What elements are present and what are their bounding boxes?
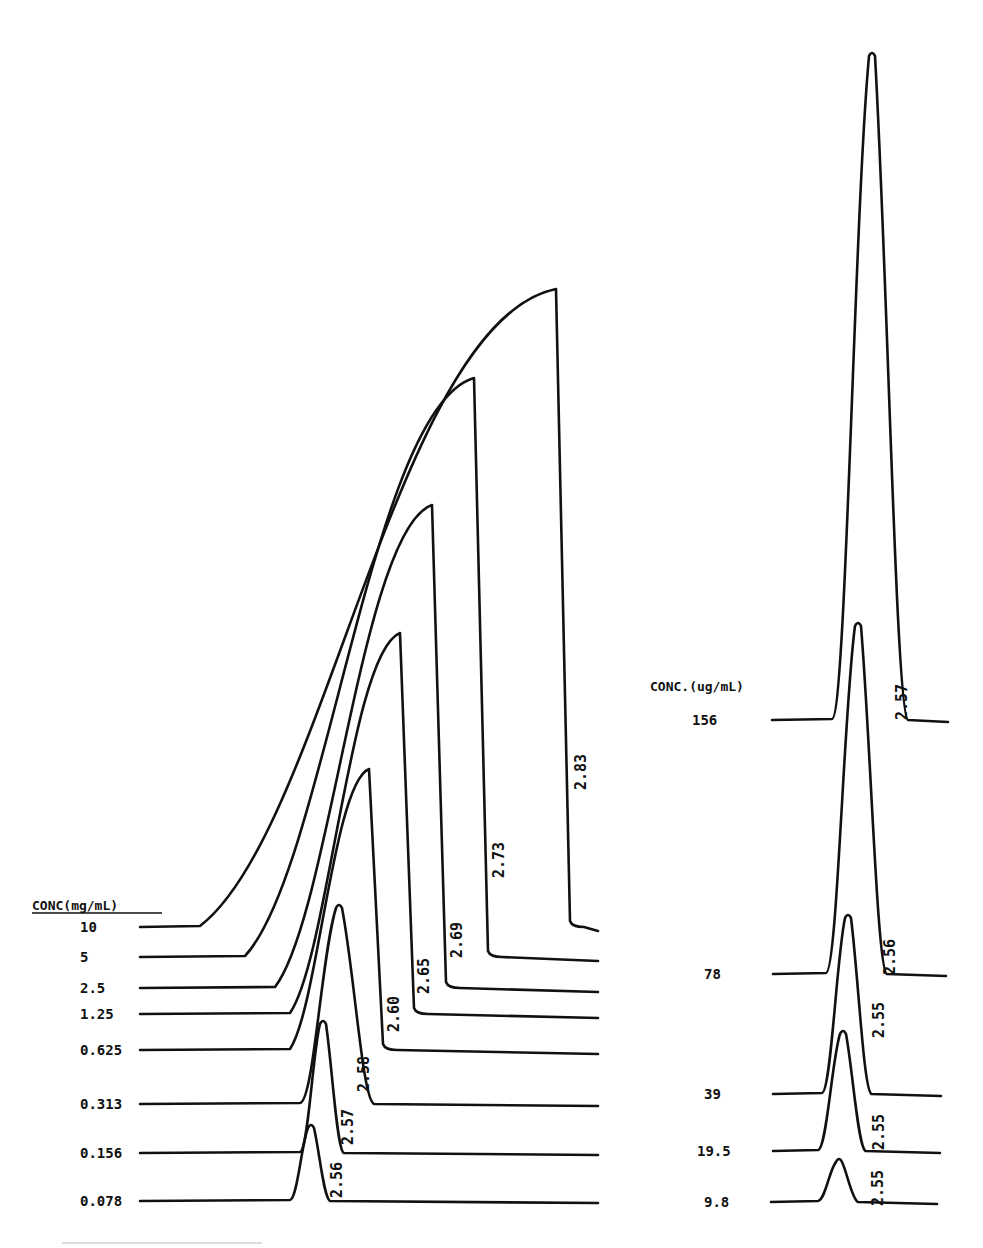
chromatogram-trace — [140, 1125, 598, 1203]
concentration-label: 39 — [704, 1086, 721, 1102]
retention-time-label: 2.56 — [881, 939, 899, 975]
left-concentration-header: CONC(mg/mL) — [32, 898, 118, 913]
concentration-label: 10 — [80, 919, 97, 935]
retention-time-label: 2.58 — [355, 1056, 373, 1092]
chromatogram-figure: CONC(mg/mL) 102.8352.732.52.691.252.650.… — [0, 0, 983, 1248]
retention-time-label: 2.60 — [385, 996, 403, 1032]
retention-time-label: 2.55 — [870, 1002, 888, 1038]
retention-time-label: 2.83 — [572, 754, 590, 790]
retention-time-label: 2.57 — [893, 684, 911, 720]
right-concentration-header: CONC.(ug/mL) — [650, 679, 744, 694]
concentration-label: 0.078 — [80, 1193, 122, 1209]
retention-time-label: 2.55 — [869, 1170, 887, 1206]
concentration-label: 2.5 — [80, 980, 105, 996]
concentration-label: 19.5 — [697, 1143, 731, 1159]
chromatogram-trace — [772, 53, 948, 722]
trace-0_313: 0.3132.58 — [80, 905, 598, 1112]
right-chromatogram-panel: CONC.(ug/mL) 1562.57782.56392.5519.52.55… — [650, 53, 948, 1210]
chromatogram-trace — [771, 1159, 937, 1204]
retention-time-label: 2.55 — [870, 1114, 888, 1150]
retention-time-label: 2.73 — [490, 842, 508, 878]
concentration-label: 156 — [692, 712, 717, 728]
left-traces: 102.8352.732.52.691.252.650.6252.600.313… — [80, 289, 598, 1209]
concentration-label: 78 — [704, 966, 721, 982]
retention-time-label: 2.69 — [448, 922, 466, 958]
trace-39: 392.55 — [704, 915, 941, 1102]
concentration-label: 0.313 — [80, 1096, 122, 1112]
chromatogram-trace — [140, 633, 598, 1018]
chromatogram-trace — [773, 915, 941, 1096]
chromatogram-trace — [773, 623, 946, 976]
retention-time-label: 2.65 — [415, 958, 433, 994]
left-chromatogram-panel: CONC(mg/mL) 102.8352.732.52.691.252.650.… — [32, 289, 598, 1209]
trace-156: 1562.57 — [692, 53, 948, 728]
concentration-label: 1.25 — [80, 1006, 114, 1022]
chromatogram-plot: CONC(mg/mL) 102.8352.732.52.691.252.650.… — [0, 0, 983, 1248]
concentration-label: 0.625 — [80, 1042, 122, 1058]
right-traces: 1562.57782.56392.5519.52.559.82.55 — [692, 53, 948, 1210]
chromatogram-trace — [773, 1031, 940, 1153]
chromatogram-trace — [140, 769, 598, 1054]
chromatogram-trace — [140, 289, 598, 931]
trace-0_156: 0.1562.57 — [80, 1021, 598, 1161]
retention-time-label: 2.56 — [328, 1162, 346, 1198]
trace-2_5: 2.52.69 — [80, 505, 598, 996]
retention-time-label: 2.57 — [339, 1109, 357, 1145]
concentration-label: 0.156 — [80, 1145, 122, 1161]
concentration-label: 9.8 — [704, 1194, 729, 1210]
trace-9_8: 9.82.55 — [704, 1159, 937, 1210]
trace-5: 52.73 — [80, 378, 598, 965]
concentration-label: 5 — [80, 949, 88, 965]
cropped-caption-fragment — [62, 1242, 262, 1248]
chromatogram-trace — [140, 378, 598, 961]
trace-78: 782.56 — [704, 623, 946, 982]
